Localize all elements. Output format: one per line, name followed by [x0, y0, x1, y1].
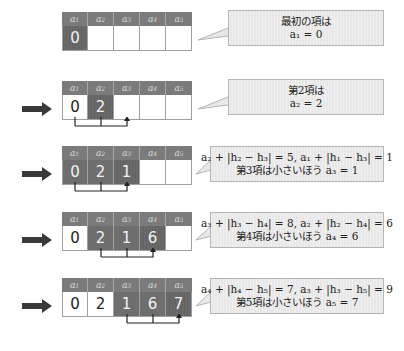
header-cell: a3	[114, 146, 140, 160]
value-cell	[140, 26, 166, 51]
header-cell: a1	[62, 146, 88, 160]
right-arrow-icon	[22, 233, 52, 247]
bubble-line1: a₃ + |h₃ − h₄| = 8, a₂ + |h₂ − h₄| = 6	[201, 217, 393, 230]
value-cell	[166, 26, 192, 51]
bubble-line1: 第2項は	[288, 84, 325, 97]
explanation-bubble: a₂ + |h₂ − h₃| = 5, a₁ + |h₁ − h₃| = 1第3…	[210, 146, 384, 182]
explanation-bubble: a₃ + |h₃ − h₄| = 8, a₂ + |h₂ − h₄| = 6第4…	[210, 212, 384, 248]
header-cell: a2	[88, 146, 114, 160]
header-cell: a5	[166, 212, 192, 226]
sequence-table: a1a2a3a4a5021	[62, 146, 192, 185]
header-cell: a2	[88, 212, 114, 226]
value-cell	[114, 26, 140, 51]
transition-bracket	[62, 248, 192, 262]
header-row: a1a2a3a4a5	[62, 212, 192, 226]
header-row: a1a2a3a4a5	[62, 278, 192, 292]
explanation-bubble: a₄ + |h₄ − h₅| = 7, a₃ + |h₃ − h₅| = 9第5…	[210, 278, 384, 314]
bubble-line2: 第3項は小さいほう a₃ = 1	[236, 164, 359, 177]
transition-bracket	[62, 314, 192, 328]
header-cell: a4	[140, 212, 166, 226]
step-2: a1a2a3a4a502第2項はa₂ = 2	[0, 77, 404, 141]
header-cell: a2	[88, 12, 114, 26]
step-5: a1a2a3a4a502167a₄ + |h₄ − h₅| = 7, a₃ + …	[0, 274, 404, 338]
header-cell: a2	[88, 278, 114, 292]
right-arrow-icon	[22, 167, 52, 181]
header-cell: a1	[62, 81, 88, 95]
arrowhead-icon	[150, 248, 156, 252]
transition-bracket	[62, 182, 192, 196]
sequence-table: a1a2a3a4a50	[62, 12, 192, 51]
header-cell: a1	[62, 212, 88, 226]
bubble-line1: a₄ + |h₄ − h₅| = 7, a₃ + |h₃ − h₅| = 9	[201, 283, 393, 296]
value-cell	[88, 26, 114, 51]
header-cell: a3	[114, 212, 140, 226]
header-cell: a5	[166, 81, 192, 95]
header-cell: a5	[166, 146, 192, 160]
step-4: a1a2a3a4a50216a₃ + |h₃ − h₄| = 8, a₂ + |…	[0, 208, 404, 272]
header-cell: a3	[114, 81, 140, 95]
bubble-line2: a₂ = 2	[290, 97, 323, 110]
right-arrow-icon	[22, 299, 52, 313]
header-cell: a3	[114, 278, 140, 292]
step-1: a1a2a3a4a50最初の項はa₁ = 0	[0, 8, 404, 72]
bubble-line1: a₂ + |h₂ − h₃| = 5, a₁ + |h₁ − h₃| = 1	[201, 151, 393, 164]
bubble-line2: 第5項は小さいほう a₅ = 7	[236, 296, 359, 309]
sequence-table: a1a2a3a4a50216	[62, 212, 192, 251]
header-row: a1a2a3a4a5	[62, 146, 192, 160]
header-cell: a4	[140, 146, 166, 160]
header-cell: a5	[166, 12, 192, 26]
speech-bubble-tail	[198, 22, 228, 42]
header-cell: a1	[62, 12, 88, 26]
step-3: a1a2a3a4a5021a₂ + |h₂ − h₃| = 5, a₁ + |h…	[0, 142, 404, 206]
header-row: a1a2a3a4a5	[62, 12, 192, 26]
value-row: 0	[62, 26, 192, 51]
bubble-line2: a₁ = 0	[290, 28, 323, 41]
speech-bubble-tail	[198, 91, 228, 111]
bubble-line2: 第4項は小さいほう a₄ = 6	[236, 230, 359, 243]
sequence-table: a1a2a3a4a502	[62, 81, 192, 120]
right-arrow-icon	[22, 102, 52, 116]
header-cell: a3	[114, 12, 140, 26]
value-cell: 0	[62, 26, 88, 51]
header-cell: a4	[140, 278, 166, 292]
explanation-bubble: 第2項はa₂ = 2	[228, 79, 384, 115]
transition-bracket	[62, 117, 192, 131]
bubble-line1: 最初の項は	[281, 15, 331, 28]
arrowhead-icon	[124, 117, 130, 121]
header-row: a1a2a3a4a5	[62, 81, 192, 95]
sequence-table: a1a2a3a4a502167	[62, 278, 192, 317]
header-cell: a1	[62, 278, 88, 292]
header-cell: a5	[166, 278, 192, 292]
arrowhead-icon	[124, 182, 130, 186]
header-cell: a4	[140, 12, 166, 26]
header-cell: a4	[140, 81, 166, 95]
explanation-bubble: 最初の項はa₁ = 0	[228, 10, 384, 46]
header-cell: a2	[88, 81, 114, 95]
arrowhead-icon	[176, 314, 182, 318]
